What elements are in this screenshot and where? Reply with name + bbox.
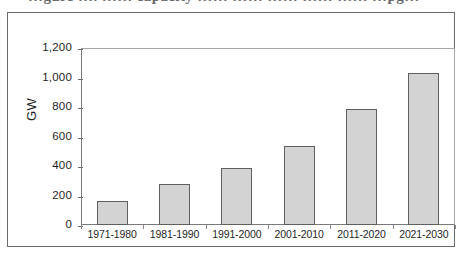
x-axis-tick-label: 1991-2000 xyxy=(206,228,268,240)
bar[interactable] xyxy=(221,168,252,225)
y-axis-tick-mark xyxy=(78,79,83,80)
x-axis-labels: 1971-19801981-19901991-20002001-20102011… xyxy=(81,228,455,240)
y-axis-tick-mark xyxy=(78,49,83,50)
y-axis-tick-label: 0 xyxy=(12,218,72,230)
y-axis-tick-label: 600 xyxy=(12,130,72,142)
x-axis-tick-label: 2021-2030 xyxy=(393,228,455,240)
x-axis-tick-label: 2011-2020 xyxy=(330,228,392,240)
figure-frame: GW 02004006008001,0001,200 1971-19801981… xyxy=(7,12,455,247)
y-axis-tick-label: 1,000 xyxy=(12,71,72,83)
y-axis-tick-mark xyxy=(78,108,83,109)
bar[interactable] xyxy=(346,109,377,225)
x-axis-tick-label: 2001-2010 xyxy=(268,228,330,240)
figure-container: …gure …. …… capacity …… …… …… …… …… …pg…… xyxy=(0,0,465,256)
y-axis-tick-mark xyxy=(78,167,83,168)
y-axis-tick-mark xyxy=(78,138,83,139)
bar[interactable] xyxy=(408,73,439,225)
y-axis-tick-label: 1,200 xyxy=(12,41,72,53)
y-axis-tick-label: 400 xyxy=(12,159,72,171)
x-axis-tick-label: 1971-1980 xyxy=(81,228,143,240)
plot-area: 02004006008001,0001,200 xyxy=(81,48,455,225)
y-axis-tick-label: 200 xyxy=(12,189,72,201)
y-axis-tick-mark xyxy=(78,197,83,198)
caption-sliver-text: …gure …. …… capacity …… …… …… …… …… …pg… xyxy=(28,0,420,5)
bar[interactable] xyxy=(97,201,128,225)
y-axis-tick-label: 800 xyxy=(12,100,72,112)
x-axis-tick-mark xyxy=(455,225,456,229)
bar[interactable] xyxy=(159,184,190,225)
x-axis-tick-label: 1981-1990 xyxy=(143,228,205,240)
caption-sliver: …gure …. …… capacity …… …… …… …… …… …pg… xyxy=(0,0,465,9)
bar[interactable] xyxy=(284,146,315,225)
